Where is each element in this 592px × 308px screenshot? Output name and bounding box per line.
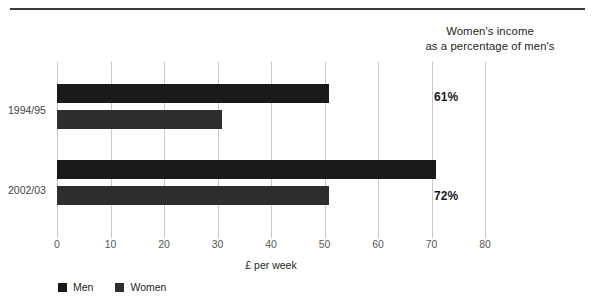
legend-swatch-icon-men	[58, 283, 67, 292]
bar-men-2002-03	[57, 160, 436, 179]
x-tick-label-0: 0	[37, 238, 77, 250]
legend-item-men[interactable]: Men	[58, 281, 93, 293]
x-tick-label-10: 10	[91, 238, 131, 250]
x-tick-label-70: 70	[412, 238, 452, 250]
plot-area	[57, 62, 485, 233]
gridline-70	[432, 62, 433, 233]
bar-men-1994-95	[57, 84, 329, 103]
gridline-60	[378, 62, 379, 233]
y-axis-label-2002-03: 2002/03	[8, 184, 54, 196]
legend-label-men: Men	[73, 281, 93, 293]
percentage-annotation-72: 72%	[434, 189, 458, 203]
chart-legend: MenWomen	[58, 281, 166, 293]
x-tick-label-20: 20	[144, 238, 184, 250]
figure-bar-chart-income: Women's income as a percentage of men's …	[0, 0, 592, 308]
bar-women-2002-03	[57, 186, 329, 205]
top-divider-rule	[10, 8, 585, 10]
legend-item-women[interactable]: Women	[115, 281, 166, 293]
x-tick-label-50: 50	[305, 238, 345, 250]
legend-swatch-icon-women	[115, 283, 124, 292]
x-tick-label-40: 40	[251, 238, 291, 250]
x-tick-label-80: 80	[465, 238, 505, 250]
percentage-annotation-61: 61%	[434, 90, 458, 104]
header-caption-line-1: Women's income	[392, 24, 588, 39]
legend-label-women: Women	[130, 281, 166, 293]
chart-header-caption: Women's income as a percentage of men's	[392, 24, 588, 54]
y-axis-label-1994-95: 1994/95	[8, 104, 54, 116]
x-axis-title: £ per week	[57, 259, 485, 271]
bar-women-1994-95	[57, 110, 222, 129]
x-tick-label-60: 60	[358, 238, 398, 250]
gridline-80	[485, 62, 486, 233]
x-tick-label-30: 30	[198, 238, 238, 250]
header-caption-line-2: as a percentage of men's	[392, 39, 588, 54]
